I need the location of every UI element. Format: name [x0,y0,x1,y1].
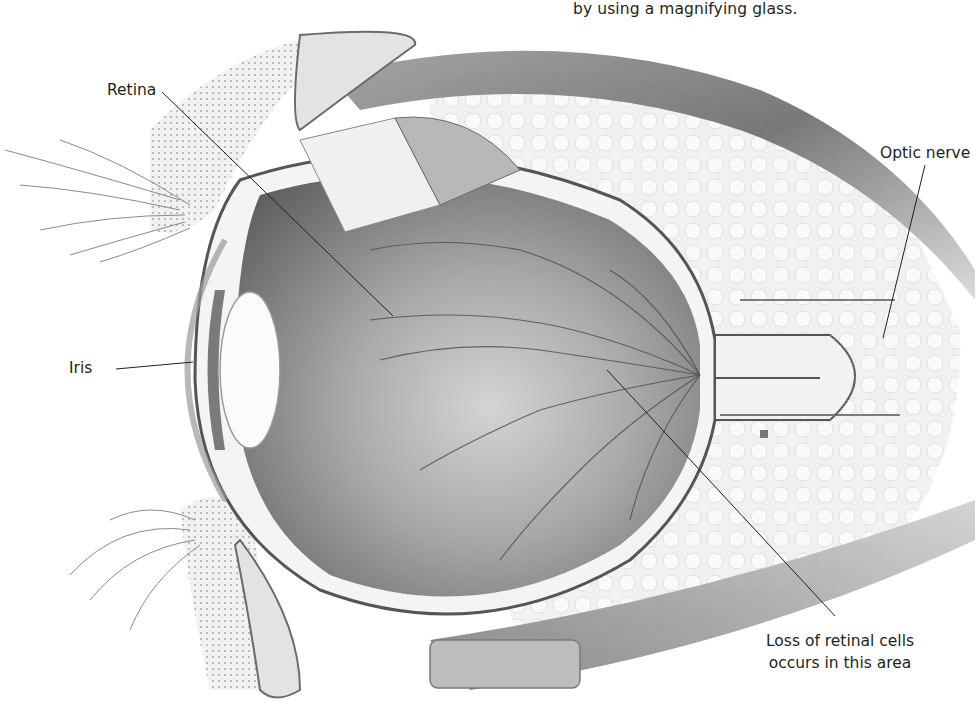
label-optic-nerve: Optic nerve [880,143,970,163]
lens [220,292,280,448]
eye-illustration [0,0,976,710]
label-loss-line2: occurs in this area [766,652,914,674]
label-iris: Iris [69,358,92,378]
iris-leader [116,362,193,369]
vitreous-body [235,175,700,597]
eye-diagram: by using a magnifying glass. Retina Opti… [0,0,976,710]
label-loss-of-retinal-cells: Loss of retinal cells occurs in this are… [766,630,914,674]
inferior-oblique [430,640,580,688]
label-retina: Retina [107,80,156,100]
label-loss-line1: Loss of retinal cells [766,630,914,652]
caption-fragment: by using a magnifying glass. [573,0,798,18]
lower-eyelashes [70,510,200,630]
